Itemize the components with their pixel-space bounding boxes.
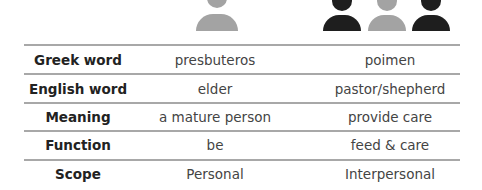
presbuteros-cell: a mature person [140,109,290,125]
row-label: Meaning [8,109,148,125]
table-row: Function be feed & care [0,131,482,159]
poimen-cell: poimen [310,52,470,68]
presbuteros-cell: elder [140,81,290,97]
table-row: Scope Personal Interpersonal [0,160,482,188]
poimen-cell: feed & care [310,137,470,153]
single-person-icon [196,0,238,32]
person-icon-left [323,0,361,32]
person-icon-right [412,0,450,32]
table-row: English word elder pastor/shepherd [0,75,482,103]
poimen-cell: pastor/shepherd [310,81,470,97]
poimen-cell: provide care [310,109,470,125]
table-row: Greek word presbuteros poimen [0,46,482,74]
person-icon-middle [368,0,406,32]
presbuteros-cell: be [140,137,290,153]
row-label: Greek word [8,52,148,68]
row-label: English word [8,81,148,97]
presbuteros-cell: Personal [140,166,290,182]
table-row: Meaning a mature person provide care [0,103,482,131]
row-label: Scope [8,166,148,182]
row-label: Function [8,137,148,153]
presbuteros-cell: presbuteros [140,52,290,68]
poimen-cell: Interpersonal [310,166,470,182]
